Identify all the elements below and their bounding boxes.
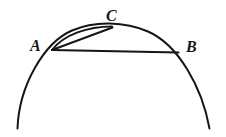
geometry-figure: A B C	[0, 0, 226, 137]
vertex-label-c: C	[106, 8, 117, 24]
major-circle-arc	[18, 23, 210, 128]
vertex-label-a: A	[30, 38, 41, 54]
chord-A-to-B	[52, 50, 179, 53]
vertex-label-b: B	[186, 39, 197, 55]
